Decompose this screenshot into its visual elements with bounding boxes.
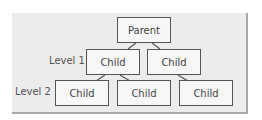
level-2-child-node: Child bbox=[55, 80, 109, 106]
level-1-label: Level 1 bbox=[49, 55, 85, 66]
parent-node: Parent bbox=[117, 17, 171, 43]
child-label: Child bbox=[131, 88, 156, 99]
child-label: Child bbox=[161, 57, 186, 68]
level-1-child-node: Child bbox=[147, 49, 201, 75]
child-label: Child bbox=[69, 88, 94, 99]
level-1-child-node: Child bbox=[86, 49, 140, 75]
child-label: Child bbox=[193, 88, 218, 99]
parent-label: Parent bbox=[128, 25, 160, 36]
level-2-child-node: Child bbox=[179, 80, 233, 106]
child-label: Child bbox=[100, 57, 125, 68]
level-2-label: Level 2 bbox=[15, 86, 51, 97]
level-2-child-node: Child bbox=[117, 80, 171, 106]
